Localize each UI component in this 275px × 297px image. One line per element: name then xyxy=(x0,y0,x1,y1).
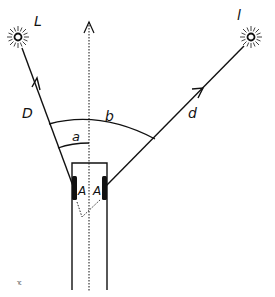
ray-left-label: D xyxy=(22,105,33,121)
eye-left-label: A xyxy=(77,184,86,198)
light-right-label: l xyxy=(237,7,241,23)
sun-icon xyxy=(7,26,29,48)
angle-a-label: a xyxy=(72,129,80,144)
eye-right xyxy=(102,176,107,200)
center-axis xyxy=(84,22,94,292)
angle-b-label: b xyxy=(105,108,114,124)
ray-right-label: d xyxy=(188,105,197,121)
diagram-canvas: L l D d a b A A xyxy=(0,0,275,297)
angle-arc-b xyxy=(49,119,155,139)
corner-mark: ᅚ xyxy=(16,281,22,289)
light-left-label: L xyxy=(34,13,42,29)
eye-right-label: A xyxy=(92,184,101,198)
ray-right xyxy=(104,46,244,188)
sun-icon xyxy=(240,26,262,48)
eye-left xyxy=(72,176,77,200)
